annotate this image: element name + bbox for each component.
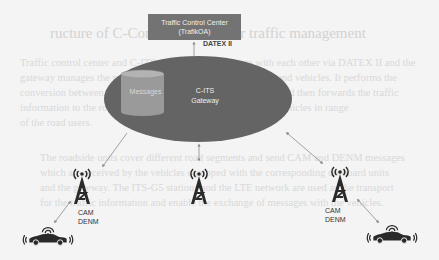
link-left-tower-vehicle bbox=[55, 202, 70, 222]
left-station-label: CAM DENM bbox=[78, 208, 99, 226]
center-tower-icon bbox=[191, 169, 207, 204]
link-gateway-left-tower bbox=[103, 133, 127, 166]
datex-label: DATEX II bbox=[203, 40, 232, 47]
link-gateway-right-tower bbox=[287, 133, 322, 163]
left-station-denm: DENM bbox=[78, 217, 99, 226]
left-vehicle-icon bbox=[23, 228, 72, 246]
gateway-label-line1: C-ITS bbox=[180, 86, 230, 96]
traffic-control-center-box: Traffic Control Center (TrafikOA) bbox=[148, 14, 241, 40]
right-station-label: CAM DENM bbox=[325, 206, 346, 224]
right-station-denm: DENM bbox=[325, 215, 346, 224]
tcc-title: Traffic Control Center bbox=[148, 18, 241, 27]
tcc-subtitle: (TrafikOA) bbox=[148, 27, 241, 36]
right-station-cam: CAM bbox=[325, 206, 346, 215]
database-label: Messages bbox=[118, 88, 173, 95]
right-vehicle-icon bbox=[367, 226, 416, 244]
left-station-cam: CAM bbox=[78, 208, 99, 217]
gateway-label: C-ITS Gateway bbox=[180, 86, 230, 106]
gateway-label-line2: Gateway bbox=[180, 96, 230, 106]
right-tower-icon bbox=[332, 167, 348, 202]
link-right-tower-vehicle bbox=[358, 200, 378, 222]
left-tower-icon bbox=[74, 169, 90, 204]
